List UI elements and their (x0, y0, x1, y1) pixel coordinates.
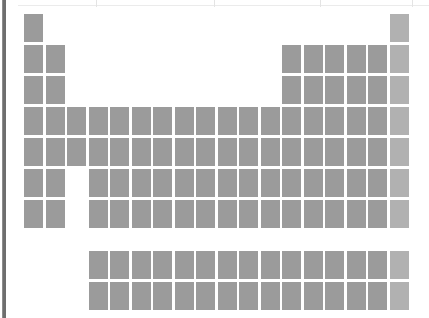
element-cell[interactable] (218, 138, 237, 166)
element-cell[interactable] (325, 138, 344, 166)
element-cell[interactable] (110, 169, 129, 197)
element-cell[interactable] (390, 45, 409, 73)
element-cell[interactable] (304, 200, 323, 228)
element-cell[interactable] (24, 107, 43, 135)
element-cell[interactable] (304, 45, 323, 73)
element-cell[interactable] (325, 200, 344, 228)
element-cell[interactable] (132, 251, 151, 279)
element-cell[interactable] (175, 107, 194, 135)
element-cell[interactable] (89, 169, 108, 197)
element-cell[interactable] (325, 45, 344, 73)
element-cell[interactable] (261, 138, 280, 166)
element-cell[interactable] (282, 251, 301, 279)
element-cell[interactable] (218, 282, 237, 310)
element-cell[interactable] (132, 107, 151, 135)
element-cell[interactable] (153, 200, 172, 228)
element-cell[interactable] (239, 200, 258, 228)
element-cell[interactable] (196, 169, 215, 197)
element-cell[interactable] (175, 282, 194, 310)
element-cell[interactable] (196, 200, 215, 228)
element-cell[interactable] (304, 169, 323, 197)
element-cell[interactable] (132, 282, 151, 310)
element-cell[interactable] (153, 107, 172, 135)
element-cell[interactable] (239, 282, 258, 310)
element-cell[interactable] (282, 45, 301, 73)
element-cell[interactable] (153, 138, 172, 166)
element-cell[interactable] (304, 138, 323, 166)
element-cell[interactable] (325, 251, 344, 279)
element-cell[interactable] (218, 169, 237, 197)
element-cell[interactable] (24, 200, 43, 228)
element-cell[interactable] (196, 138, 215, 166)
element-cell[interactable] (390, 14, 409, 42)
element-cell[interactable] (368, 107, 387, 135)
element-cell[interactable] (218, 200, 237, 228)
element-cell[interactable] (175, 169, 194, 197)
element-cell[interactable] (24, 138, 43, 166)
element-cell[interactable] (89, 107, 108, 135)
element-cell[interactable] (239, 138, 258, 166)
element-cell[interactable] (196, 107, 215, 135)
element-cell[interactable] (153, 169, 172, 197)
element-cell[interactable] (239, 251, 258, 279)
element-cell[interactable] (390, 107, 409, 135)
element-cell[interactable] (24, 169, 43, 197)
element-cell[interactable] (368, 282, 387, 310)
element-cell[interactable] (261, 169, 280, 197)
element-cell[interactable] (347, 107, 366, 135)
element-cell[interactable] (304, 282, 323, 310)
element-cell[interactable] (46, 107, 65, 135)
element-cell[interactable] (46, 45, 65, 73)
element-cell[interactable] (390, 200, 409, 228)
element-cell[interactable] (110, 282, 129, 310)
element-cell[interactable] (110, 107, 129, 135)
element-cell[interactable] (282, 200, 301, 228)
element-cell[interactable] (239, 169, 258, 197)
element-cell[interactable] (153, 251, 172, 279)
element-cell[interactable] (347, 169, 366, 197)
element-cell[interactable] (390, 138, 409, 166)
element-cell[interactable] (175, 200, 194, 228)
element-cell[interactable] (282, 138, 301, 166)
element-cell[interactable] (368, 138, 387, 166)
element-cell[interactable] (89, 138, 108, 166)
element-cell[interactable] (325, 107, 344, 135)
element-cell[interactable] (304, 251, 323, 279)
element-cell[interactable] (325, 282, 344, 310)
element-cell[interactable] (261, 107, 280, 135)
element-cell[interactable] (282, 282, 301, 310)
element-cell[interactable] (390, 282, 409, 310)
element-cell[interactable] (175, 138, 194, 166)
element-cell[interactable] (89, 251, 108, 279)
element-cell[interactable] (132, 200, 151, 228)
element-cell[interactable] (196, 251, 215, 279)
element-cell[interactable] (89, 282, 108, 310)
element-cell[interactable] (368, 45, 387, 73)
element-cell[interactable] (175, 251, 194, 279)
element-cell[interactable] (46, 138, 65, 166)
element-cell[interactable] (196, 282, 215, 310)
element-cell[interactable] (325, 76, 344, 104)
element-cell[interactable] (347, 138, 366, 166)
element-cell[interactable] (368, 76, 387, 104)
element-cell[interactable] (46, 76, 65, 104)
element-cell[interactable] (368, 169, 387, 197)
element-cell[interactable] (132, 138, 151, 166)
element-cell[interactable] (347, 76, 366, 104)
element-cell[interactable] (239, 107, 258, 135)
element-cell[interactable] (218, 251, 237, 279)
element-cell[interactable] (347, 251, 366, 279)
element-cell[interactable] (368, 251, 387, 279)
element-cell[interactable] (282, 169, 301, 197)
element-cell[interactable] (46, 200, 65, 228)
element-cell[interactable] (261, 251, 280, 279)
element-cell[interactable] (110, 200, 129, 228)
element-cell[interactable] (132, 169, 151, 197)
element-cell[interactable] (110, 251, 129, 279)
element-cell[interactable] (347, 45, 366, 73)
element-cell[interactable] (368, 200, 387, 228)
element-cell[interactable] (89, 200, 108, 228)
element-cell[interactable] (347, 282, 366, 310)
element-cell[interactable] (24, 14, 43, 42)
element-cell[interactable] (24, 45, 43, 73)
